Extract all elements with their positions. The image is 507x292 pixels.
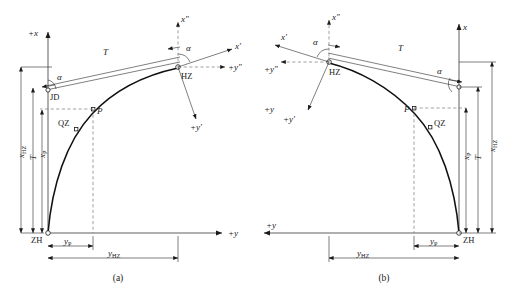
panel-b-y-axis-label: +y: [266, 220, 276, 230]
panel-a-dim-y-p: yP: [48, 236, 93, 247]
panel-a-y1-axis-label: +y′: [190, 122, 203, 132]
panel-b-point-hz: HZ x″ +y″ x′ +y′ α: [264, 12, 340, 124]
panel-a: +x +y T α JD: [16, 14, 242, 284]
panel-b-tangent-line: T: [328, 43, 462, 87]
panel-b-x1-axis-label: x′: [280, 32, 288, 42]
panel-b-angle-alpha-jd: α: [437, 66, 461, 92]
panel-a-p-label: P: [96, 106, 103, 116]
panel-a-alpha-jd-label: α: [57, 72, 62, 82]
panel-b-dim-y-p: yP: [414, 236, 459, 247]
panel-a-x2-axis-label: x″: [180, 14, 189, 24]
panel-b-dim-y-hz-label: yHZ: [356, 248, 369, 259]
panel-b-y-axis: +y: [264, 220, 459, 233]
panel-a-hz-label: HZ: [181, 71, 192, 81]
panel-a-dim-x-hz-label: xHZ: [16, 146, 27, 159]
panel-a-dim-x-p: xP: [37, 110, 48, 233]
panel-b-dim-x-p-label: xP: [461, 152, 472, 161]
panel-b-dim-x-hz-label: xHZ: [487, 140, 498, 153]
panel-b-zh-label: ZH: [463, 235, 474, 245]
panel-b: x +y T α HZ: [264, 12, 498, 284]
panel-a-caption: (a): [113, 273, 124, 284]
panel-a-point-hz: HZ x″ +y″ x′ +y′ α: [176, 14, 242, 132]
panel-b-y1-axis-label: +y′: [283, 114, 296, 124]
panel-a-x-axis-label: +x: [28, 28, 38, 38]
panel-a-qz-label: QZ: [58, 118, 69, 128]
panel-a-dim-x-p-label: xP: [37, 150, 48, 159]
panel-a-dim-t-vertical: T: [28, 88, 38, 233]
panel-a-y-axis: +y: [48, 228, 238, 238]
panel-b-x2-axis-label: x″: [331, 12, 340, 22]
panel-a-x1-axis-label: x′: [234, 41, 242, 51]
panel-b-qz-label: QZ: [434, 118, 445, 128]
panel-a-transition-curve: [48, 68, 178, 233]
panel-a-alpha-hz-label: α: [186, 43, 191, 53]
panel-b-dim-y-hz: yHZ: [329, 236, 459, 262]
panel-a-dim-y-p-label: yP: [63, 236, 72, 247]
panel-a-y2-axis-label: +y″: [228, 62, 242, 72]
panel-a-y-axis-label: +y: [228, 228, 238, 238]
panel-a-dim-y-hz-label: yHZ: [107, 248, 120, 259]
panel-b-transition-curve: [329, 63, 459, 233]
panel-b-point-qz: QZ: [429, 118, 446, 129]
panel-a-point-qz: QZ: [58, 118, 78, 131]
panel-b-hz-label: HZ: [329, 67, 340, 77]
panel-a-angle-alpha-jd: α: [48, 72, 62, 89]
panel-b-y-axis-upper-label: +y: [264, 104, 274, 114]
panel-b-dim-x-p: xP: [461, 108, 472, 233]
panel-b-alpha-jd-label: α: [437, 66, 442, 76]
panel-a-dim-T-tangent: T: [103, 47, 109, 57]
transition-curve-diagram: +x +y T α JD: [0, 0, 507, 292]
panel-b-caption: (b): [378, 273, 389, 284]
panel-b-y2-axis-label: +y″: [264, 64, 278, 74]
panel-b-dim-y-p-label: yP: [429, 236, 438, 247]
panel-a-zh-label: ZH: [31, 235, 42, 245]
figure-root: +x +y T α JD: [0, 0, 507, 292]
panel-b-alpha-hz-label: α: [313, 37, 318, 47]
panel-a-x-axis: +x: [28, 28, 48, 233]
panel-a-tangent-line: T: [42, 47, 180, 90]
panel-a-jd-label: JD: [50, 92, 59, 102]
panel-b-x-axis-label: x: [462, 22, 467, 32]
panel-b-dim-T-tangent: T: [398, 43, 404, 53]
panel-b-p-label: P: [403, 104, 410, 114]
